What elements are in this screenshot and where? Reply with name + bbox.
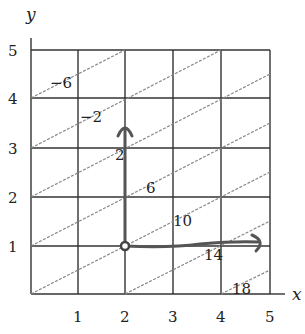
- start-point: [121, 242, 129, 250]
- svg-text:1: 1: [8, 238, 18, 256]
- contour-label: 18: [232, 280, 251, 298]
- contour-label: −6: [50, 74, 72, 92]
- contour-label: 2: [115, 146, 125, 164]
- svg-text:5: 5: [265, 308, 275, 326]
- svg-text:2: 2: [120, 308, 130, 326]
- svg-text:1: 1: [73, 308, 83, 326]
- y-axis-label: y: [25, 4, 36, 24]
- svg-text:2: 2: [8, 189, 18, 207]
- x-tick-labels: 1 2 3 4 5: [73, 308, 275, 326]
- gradient-arrows: [118, 128, 260, 251]
- contour-diagram: −6 −2 2 6 10 14 18 1 2 3 4 5 1 2 3 4 5 y…: [0, 0, 305, 334]
- svg-text:4: 4: [216, 308, 226, 326]
- svg-text:3: 3: [8, 140, 18, 158]
- svg-text:3: 3: [168, 308, 178, 326]
- x-axis-label: x: [292, 284, 302, 304]
- svg-text:4: 4: [8, 90, 18, 108]
- svg-text:5: 5: [8, 42, 18, 60]
- contour-label: 10: [173, 212, 192, 230]
- contour-label: 14: [204, 246, 223, 264]
- contour-label: 6: [146, 179, 156, 197]
- y-tick-labels: 1 2 3 4 5: [8, 42, 18, 256]
- contour-label: −2: [80, 108, 102, 126]
